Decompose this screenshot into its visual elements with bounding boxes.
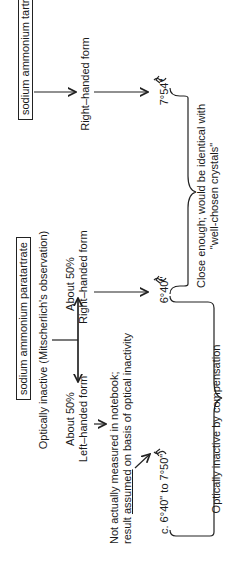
right-branch-percent: About 50% [64,244,77,324]
note-underlined-word: assumed [121,469,133,514]
tartrate-compound-box: sodium ammonium tartrate [18,0,33,120]
left-branch-form: Left–handed form [77,374,90,464]
assumption-note-line2: result assumed on basis of optical inact… [121,333,134,544]
tartrate-form-label: Right–handed form [79,34,92,134]
assumption-note-line1: Not actually measured in notebook; [108,372,121,544]
right-branch-form-label: Right–handed form [77,230,89,324]
tartrate-rotation-value: 7°54" [158,72,171,112]
right-form-rotation-value: 6°40" [158,270,171,310]
close-enough-line1: Close enough; would be identical with [195,96,208,296]
paratartrate-observation: Optically inactive (Mitscherlich's obser… [37,220,50,460]
right-branch-form: Right–handed form [77,244,90,324]
close-enough-line2: "well-chosen crystals" [208,96,221,296]
rotated-diagram: sodium ammonium tartrate Right–handed fo… [0,0,228,564]
note-text-end: on basis of optical inactivity [121,333,133,469]
left-branch-percent: About 50% [64,374,77,464]
paratartrate-compound-box: sodium ammonium paratartrate [16,237,31,400]
left-form-rotation-range: c. 6°40" to 7°50" [158,454,171,534]
note-text: result [121,514,133,544]
compensation-conclusion: Optically inactive by compensation [210,324,223,534]
